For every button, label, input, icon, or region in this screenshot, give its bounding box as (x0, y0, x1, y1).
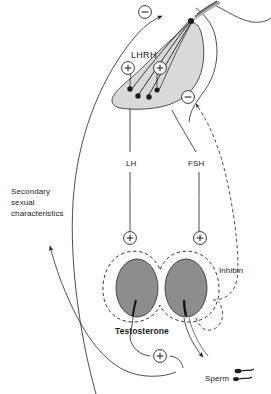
label-lh: LH (126, 159, 136, 169)
sign-marker-pos-testosterone (154, 350, 167, 363)
label-fsh: FSH (188, 159, 204, 169)
sign-marker-pos-lhrh-left (122, 62, 135, 75)
testosterone-loop-to-plus (130, 338, 150, 356)
neuron-soma-4 (155, 88, 160, 93)
sperm-duct (184, 318, 203, 357)
hypothalamus-pituitary-group (112, 1, 271, 122)
neuron-soma-3 (146, 94, 151, 99)
testosterone-plus-to-sperm-route (170, 356, 183, 368)
label-inhibin: Inhibin (219, 266, 243, 276)
sign-marker-neg-top (139, 6, 152, 19)
sign-marker-pos-testis-right (194, 232, 207, 245)
hormone-feedback-diagram: LHRH LH FSH Secondary sexual characteris… (0, 0, 271, 394)
label-testosterone: Testosterone (115, 326, 169, 336)
testis-right (165, 259, 207, 317)
sign-marker-neg-pituitary (182, 91, 195, 104)
pituitary-stalk-fiber-3 (193, 3, 220, 20)
neuron-soma-1 (127, 86, 132, 91)
sperm-icon (233, 369, 254, 381)
fsh-pathway-upper (172, 110, 196, 152)
stalk-terminal-bouton (188, 18, 194, 24)
label-secondary-sexual-characteristics: Secondary sexual characteristics (11, 186, 64, 219)
brain-contour-outer-right (213, 4, 271, 22)
label-sperm: Sperm (205, 374, 229, 384)
neuron-soma-2 (135, 93, 140, 98)
label-lhrh: LHRH (131, 50, 157, 60)
testis-left (116, 259, 158, 317)
testes-group (103, 251, 219, 322)
sign-marker-pos-lhrh-right (154, 62, 167, 75)
sign-marker-pos-testis-left (124, 232, 137, 245)
